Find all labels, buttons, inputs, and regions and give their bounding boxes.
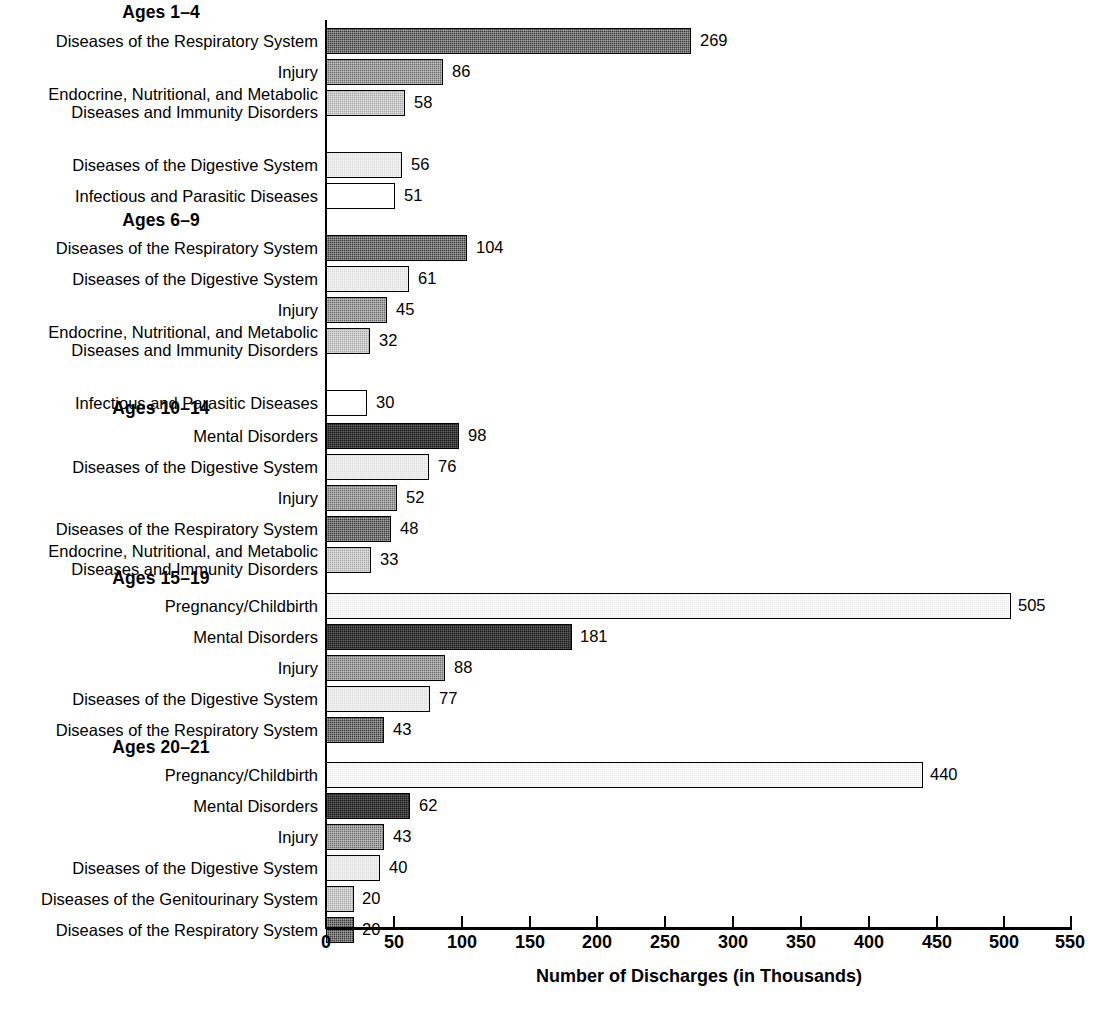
bar[interactable] bbox=[326, 793, 410, 819]
bar-row-label: Injury bbox=[0, 828, 318, 846]
bar[interactable] bbox=[326, 624, 572, 650]
bar[interactable] bbox=[326, 183, 395, 209]
bar-value: 20 bbox=[362, 889, 380, 907]
bar-row: Diseases of the Digestive System 61 bbox=[0, 264, 1104, 295]
bar-value: 30 bbox=[376, 393, 394, 411]
x-axis-tick bbox=[1070, 916, 1072, 928]
bar-row-label: Diseases of the Digestive System bbox=[0, 690, 318, 708]
bar[interactable] bbox=[326, 297, 387, 323]
bar[interactable] bbox=[326, 90, 405, 116]
bar-row: Injury 86 bbox=[0, 57, 1104, 88]
bar[interactable] bbox=[326, 485, 397, 511]
bar[interactable] bbox=[326, 423, 459, 449]
group-title: Ages 10–14 bbox=[0, 398, 322, 419]
bar-row: Injury 45 bbox=[0, 295, 1104, 326]
bar[interactable] bbox=[326, 235, 467, 261]
bar-value: 77 bbox=[439, 689, 457, 707]
bar-value: 86 bbox=[452, 62, 470, 80]
bar[interactable] bbox=[326, 686, 430, 712]
bar[interactable] bbox=[326, 516, 391, 542]
x-axis-tick-label: 150 bbox=[515, 932, 545, 953]
bar-row-label: Injury bbox=[0, 659, 318, 677]
x-axis-tick bbox=[393, 916, 395, 928]
bar-row-label: Infectious and Parasitic Diseases bbox=[0, 187, 318, 205]
bar-row: Pregnancy/Childbirth 505 bbox=[0, 591, 1104, 622]
bar-value: 33 bbox=[380, 550, 398, 568]
bar[interactable] bbox=[326, 593, 1011, 619]
bar-row-label: Endocrine, Nutritional, and Metabolic Di… bbox=[0, 323, 318, 359]
x-axis-line bbox=[326, 927, 1072, 930]
x-axis-tick bbox=[800, 916, 802, 928]
bar-row-label: Diseases of the Respiratory System bbox=[0, 921, 318, 939]
bar-row-label: Endocrine, Nutritional, and Metabolic Di… bbox=[0, 85, 318, 121]
bar[interactable] bbox=[326, 717, 384, 743]
bar-value: 61 bbox=[418, 269, 436, 287]
x-axis-tick-label: 550 bbox=[1055, 932, 1085, 953]
bar-value: 32 bbox=[379, 331, 397, 349]
bar[interactable] bbox=[326, 824, 384, 850]
bar-row: Diseases of the Digestive System 77 bbox=[0, 684, 1104, 715]
bar-row-label: Diseases of the Respiratory System bbox=[0, 239, 318, 257]
bar[interactable] bbox=[326, 655, 445, 681]
bar-row: Mental Disorders 181 bbox=[0, 622, 1104, 653]
x-axis-tick-label: 500 bbox=[989, 932, 1019, 953]
x-axis-title: Number of Discharges (in Thousands) bbox=[326, 966, 1072, 987]
bar-row: Diseases of the Digestive System 76 bbox=[0, 452, 1104, 483]
bar-row: Endocrine, Nutritional, and Metabolic Di… bbox=[0, 326, 1104, 357]
bar[interactable] bbox=[326, 454, 429, 480]
bar-row-label: Diseases of the Respiratory System bbox=[0, 32, 318, 50]
bar-value: 62 bbox=[419, 796, 437, 814]
bar-row: Diseases of the Digestive System 56 bbox=[0, 150, 1104, 181]
bar-row: Diseases of the Digestive System 40 bbox=[0, 853, 1104, 884]
x-axis-tick-label: 0 bbox=[321, 932, 331, 953]
bar-value: 440 bbox=[930, 765, 958, 783]
bar-row-label: Mental Disorders bbox=[0, 427, 318, 445]
bar-row-label: Injury bbox=[0, 63, 318, 81]
x-axis-tick bbox=[596, 916, 598, 928]
bar-row: Diseases of the Genitourinary System 20 bbox=[0, 884, 1104, 915]
bar[interactable] bbox=[326, 328, 370, 354]
x-axis-tick-label: 250 bbox=[650, 932, 680, 953]
bar-row: Mental Disorders 98 bbox=[0, 421, 1104, 452]
bar-row-label-line1: Endocrine, Nutritional, and Metabolic bbox=[48, 323, 318, 341]
bar-value: 48 bbox=[400, 519, 418, 537]
x-axis-tick bbox=[461, 916, 463, 928]
group-title: Ages 6–9 bbox=[0, 210, 322, 231]
x-axis-tick-label: 450 bbox=[922, 932, 952, 953]
bar[interactable] bbox=[326, 886, 354, 912]
bar-row-label: Diseases of the Digestive System bbox=[0, 859, 318, 877]
bar[interactable] bbox=[326, 390, 367, 416]
x-axis-tick bbox=[936, 916, 938, 928]
x-axis-tick bbox=[325, 916, 327, 928]
bar-row-label-line1: Endocrine, Nutritional, and Metabolic bbox=[48, 85, 318, 103]
bar-value: 43 bbox=[393, 720, 411, 738]
bar[interactable] bbox=[326, 152, 402, 178]
bar[interactable] bbox=[326, 28, 691, 54]
bar[interactable] bbox=[326, 855, 380, 881]
bar-row-label-line2: Diseases and Immunity Disorders bbox=[0, 103, 318, 121]
bar-row-label: Mental Disorders bbox=[0, 628, 318, 646]
bar-value: 52 bbox=[406, 488, 424, 506]
horizontal-bar-chart: Ages 1–4 Diseases of the Respiratory Sys… bbox=[0, 0, 1104, 1013]
x-axis-tick-label: 350 bbox=[786, 932, 816, 953]
bar[interactable] bbox=[326, 59, 443, 85]
bar-row-label: Diseases of the Digestive System bbox=[0, 458, 318, 476]
bar-value: 40 bbox=[389, 858, 407, 876]
x-axis-tick bbox=[529, 916, 531, 928]
bar[interactable] bbox=[326, 762, 923, 788]
bar-row-label: Diseases of the Genitourinary System bbox=[0, 890, 318, 908]
bar-row: Mental Disorders 62 bbox=[0, 791, 1104, 822]
bar[interactable] bbox=[326, 266, 409, 292]
bar-value: 56 bbox=[411, 155, 429, 173]
x-axis-tick-label: 400 bbox=[854, 932, 884, 953]
bar-value: 98 bbox=[468, 426, 486, 444]
bar-row-label: Injury bbox=[0, 489, 318, 507]
bar[interactable] bbox=[326, 547, 371, 573]
bar-row: Injury 43 bbox=[0, 822, 1104, 853]
bar-value: 269 bbox=[700, 31, 728, 49]
bar-row: Diseases of the Respiratory System 48 bbox=[0, 514, 1104, 545]
bar-row-label-line2: Diseases and Immunity Disorders bbox=[0, 341, 318, 359]
x-axis-tick-label: 50 bbox=[384, 932, 404, 953]
group-title: Ages 20–21 bbox=[0, 737, 322, 758]
bar-row: Injury 88 bbox=[0, 653, 1104, 684]
